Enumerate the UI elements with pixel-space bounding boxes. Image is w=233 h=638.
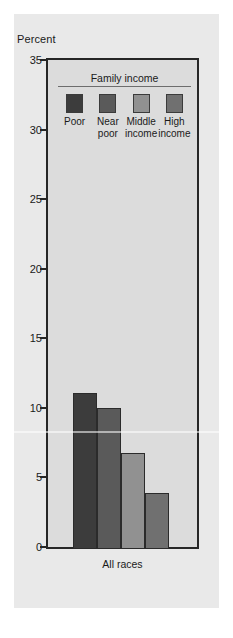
y-axis-tick-label: 30: [16, 124, 42, 136]
y-axis-tick-mark: [40, 198, 46, 200]
bar: [121, 453, 145, 549]
y-axis-tick-label: 25: [16, 193, 42, 205]
y-axis-tick-label: 20: [16, 263, 42, 275]
y-axis-tick-mark: [40, 337, 46, 339]
x-axis-category-label: All races: [46, 558, 199, 570]
y-axis-tick-label: 10: [16, 402, 42, 414]
bar: [97, 408, 121, 549]
bar: [73, 393, 97, 549]
y-axis-tick-label: 0: [16, 541, 42, 553]
y-axis-tick-label: 5: [16, 471, 42, 483]
y-axis-tick-mark: [40, 546, 46, 548]
bar: [145, 493, 169, 549]
y-axis-tick-mark: [40, 59, 46, 61]
y-axis-tick-mark: [40, 407, 46, 409]
bar-group: [48, 60, 197, 547]
y-axis-tick-mark: [40, 129, 46, 131]
y-axis-tick-mark: [40, 476, 46, 478]
y-axis-tick-label: 35: [16, 54, 42, 66]
plot-area: Family income PoorNear poorMiddle income…: [46, 58, 199, 549]
y-axis-tick-label: 15: [16, 332, 42, 344]
y-axis-title: Percent: [17, 33, 56, 45]
y-axis-tick-mark: [40, 268, 46, 270]
